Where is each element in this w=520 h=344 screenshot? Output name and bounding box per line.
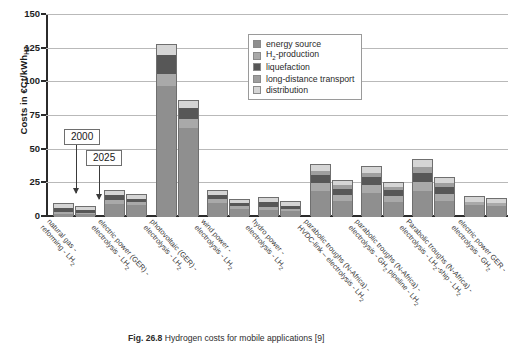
bar-segment bbox=[413, 173, 432, 182]
bar-segment bbox=[384, 202, 403, 217]
bar-segment bbox=[157, 74, 176, 86]
bar-2025[interactable] bbox=[75, 206, 96, 216]
x-axis-labels: natural gas -reforming - LH2electric pow… bbox=[46, 217, 520, 327]
legend-item[interactable]: liquefaction bbox=[253, 62, 354, 73]
bar-2000[interactable] bbox=[104, 190, 125, 216]
legend-item[interactable]: long-distance transport bbox=[253, 73, 354, 84]
bar-segment bbox=[311, 191, 330, 217]
bar-2000[interactable] bbox=[361, 166, 382, 216]
bar-group[interactable] bbox=[104, 14, 148, 216]
bar-segment bbox=[105, 204, 124, 217]
bar-segment bbox=[362, 177, 381, 185]
bar-segment bbox=[157, 86, 176, 217]
legend-item[interactable]: distribution bbox=[253, 85, 354, 96]
bar-segment bbox=[435, 187, 454, 194]
bar-segment bbox=[311, 183, 330, 191]
legend-item-label: H2-production bbox=[266, 49, 319, 63]
legend: energy sourceH2-productionliquefactionlo… bbox=[248, 34, 362, 100]
bar-segment bbox=[179, 119, 198, 128]
figure-caption-prefix: Fig. 26.8 bbox=[128, 333, 162, 343]
bar-segment bbox=[413, 182, 432, 191]
y-axis-tick-label: 25 bbox=[6, 176, 40, 187]
legend-swatch-icon bbox=[253, 40, 261, 48]
figure-caption: Fig. 26.8 Hydrogen costs for mobile appl… bbox=[128, 333, 324, 343]
callout-2000-arrow bbox=[76, 145, 77, 193]
bar-2000[interactable] bbox=[310, 164, 331, 216]
bar-2025[interactable] bbox=[229, 199, 250, 217]
bar-segment bbox=[157, 55, 176, 74]
legend-item-label: long-distance transport bbox=[266, 74, 354, 84]
bar-2025[interactable] bbox=[178, 100, 199, 216]
bar-segment bbox=[157, 45, 176, 56]
legend-swatch-icon bbox=[253, 86, 261, 94]
bar-group[interactable] bbox=[412, 14, 456, 216]
bar-segment bbox=[259, 210, 278, 217]
figure-caption-text: Hydrogen costs for mobile applications [… bbox=[165, 333, 325, 343]
y-axis-title-text: Costs in €Ct/kWh bbox=[18, 55, 29, 135]
y-axis-tick-label: 125 bbox=[6, 42, 40, 53]
y-axis-tick-label: 100 bbox=[6, 75, 40, 86]
callout-2025-arrow bbox=[99, 166, 100, 199]
legend-item-label: distribution bbox=[266, 85, 308, 95]
bar-2025[interactable] bbox=[486, 198, 507, 216]
x-axis-label: natural gas -reforming - LH2 bbox=[36, 217, 86, 269]
legend-swatch-icon bbox=[253, 63, 261, 71]
bar-segment bbox=[435, 194, 454, 201]
legend-swatch-icon bbox=[253, 52, 261, 60]
bar-segment bbox=[179, 128, 198, 217]
y-axis-tick-label: 50 bbox=[6, 143, 40, 154]
bar-segment bbox=[333, 201, 352, 217]
bar-2000[interactable] bbox=[53, 203, 74, 216]
figure-container: Costs in €Ct/kWhH2 0255075100125150 ener… bbox=[0, 0, 520, 344]
bar-segment bbox=[487, 206, 506, 217]
y-axis-tick-label: 150 bbox=[6, 8, 40, 19]
callout-2025: 2025 bbox=[86, 150, 122, 166]
y-axis-tick-label: 75 bbox=[6, 109, 40, 120]
bar-segment bbox=[230, 209, 249, 217]
bar-group[interactable] bbox=[361, 14, 405, 216]
bar-group[interactable] bbox=[156, 14, 200, 216]
bar-segment bbox=[435, 201, 454, 217]
x-axis-label: hydro power -electrolysis - LH2 bbox=[241, 217, 295, 273]
legend-item[interactable]: H2-production bbox=[253, 50, 354, 61]
bar-2025[interactable] bbox=[332, 180, 353, 216]
bar-segment bbox=[413, 160, 432, 167]
bar-2000[interactable] bbox=[207, 190, 228, 216]
bar-2000[interactable] bbox=[258, 197, 279, 216]
bar-2025[interactable] bbox=[126, 194, 147, 216]
legend-item-label: energy source bbox=[266, 39, 321, 49]
bar-segment bbox=[208, 203, 227, 217]
bar-segment bbox=[465, 205, 484, 217]
y-axis-tick-label: 0 bbox=[6, 210, 40, 221]
bar-segment bbox=[179, 108, 198, 119]
bar-group[interactable] bbox=[464, 14, 508, 216]
bar-2000[interactable] bbox=[156, 44, 177, 216]
legend-item-label: liquefaction bbox=[266, 62, 310, 72]
bar-segment bbox=[179, 101, 198, 108]
bar-2000[interactable] bbox=[412, 159, 433, 216]
bar-segment bbox=[311, 175, 330, 183]
callout-2000: 2000 bbox=[64, 129, 100, 145]
bar-2000[interactable] bbox=[464, 196, 485, 216]
bar-segment bbox=[362, 185, 381, 193]
bar-2025[interactable] bbox=[383, 182, 404, 216]
bar-2025[interactable] bbox=[280, 201, 301, 216]
bar-segment bbox=[127, 205, 146, 217]
legend-swatch-icon bbox=[253, 75, 261, 83]
bar-segment bbox=[413, 191, 432, 217]
bar-group[interactable] bbox=[207, 14, 251, 216]
bar-segment bbox=[362, 193, 381, 217]
bar-2025[interactable] bbox=[434, 177, 455, 216]
